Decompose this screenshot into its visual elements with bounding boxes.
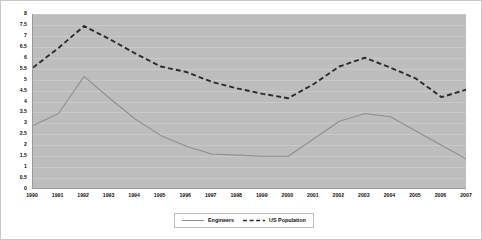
x-tick-label: 1991 (52, 193, 64, 198)
y-tick-label: 5 (24, 77, 27, 82)
series-layer (33, 14, 466, 189)
x-tick-label: 2002 (333, 193, 345, 198)
y-tick-label: 8 (24, 11, 27, 16)
y-tick-label: 2 (24, 143, 27, 148)
x-tick-label: 1990 (26, 193, 38, 198)
legend-label: US Population (269, 218, 306, 223)
y-tick-label: 2.5 (20, 132, 27, 137)
y-tick-label: 4 (24, 99, 27, 104)
y-tick-label: 0.5 (20, 175, 27, 180)
x-tick-label: 1995 (154, 193, 166, 198)
y-tick-label: 0 (24, 186, 27, 191)
x-tick-label: 2005 (409, 193, 421, 198)
legend-swatch-dashed (243, 217, 265, 224)
x-tick-label: 1996 (179, 193, 191, 198)
series-line-us-population (33, 26, 466, 98)
legend-entry-engineers[interactable]: Engineers (182, 217, 234, 224)
y-axis: 00.511.522.533.544.555.566.577.58 (1, 14, 30, 189)
y-tick-label: 1 (24, 165, 27, 170)
x-tick-label: 1999 (256, 193, 268, 198)
chart-figure: 00.511.522.533.544.555.566.577.58 199019… (0, 0, 482, 240)
y-tick-label: 4.5 (20, 88, 27, 93)
x-axis: 1990199119921993199419951996199719981999… (32, 191, 466, 205)
x-tick-label: 1992 (77, 193, 89, 198)
y-tick-label: 3 (24, 121, 27, 126)
x-tick-label: 1997 (205, 193, 217, 198)
x-tick-label: 2001 (307, 193, 319, 198)
y-tick-label: 7.5 (20, 22, 27, 27)
x-tick-label: 2003 (358, 193, 370, 198)
y-tick-label: 6.5 (20, 44, 27, 49)
series-line-engineers (33, 76, 466, 159)
x-tick-label: 2000 (282, 193, 294, 198)
y-tick-label: 3.5 (20, 110, 27, 115)
chart-legend: EngineersUS Population (174, 213, 314, 228)
legend-label: Engineers (208, 218, 234, 223)
y-tick-label: 6 (24, 55, 27, 60)
legend-swatch-solid (182, 217, 204, 224)
y-tick-label: 5.5 (20, 66, 27, 71)
x-tick-label: 1994 (128, 193, 140, 198)
x-tick-label: 1998 (230, 193, 242, 198)
x-tick-label: 2004 (384, 193, 396, 198)
legend-entry-us-population[interactable]: US Population (243, 217, 306, 224)
y-tick-label: 7 (24, 33, 27, 38)
x-tick-label: 2007 (460, 193, 472, 198)
x-tick-label: 1993 (103, 193, 115, 198)
x-tick-label: 2006 (435, 193, 447, 198)
y-tick-label: 1.5 (20, 154, 27, 159)
plot-area (32, 14, 466, 189)
